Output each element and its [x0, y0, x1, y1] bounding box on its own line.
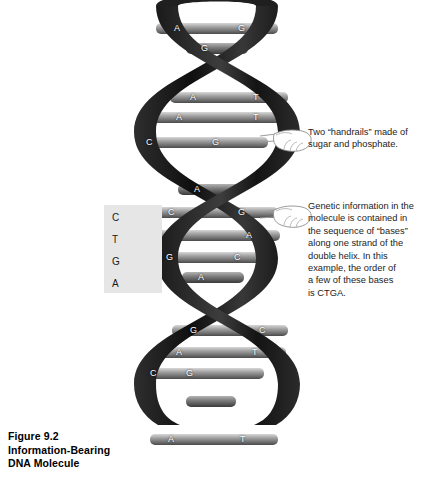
ctga-letter-g: G — [112, 251, 132, 273]
figure-caption: Figure 9.2 Information-Bearing DNA Molec… — [8, 430, 110, 471]
pointing-hand-bases-glyph — [258, 198, 314, 232]
annotation-bases: Genetic information in the molecule is c… — [308, 200, 432, 299]
ctga-letter-a: A — [112, 273, 132, 295]
pointing-hand-icon — [258, 122, 314, 156]
dna-bottom-rung-graphic — [150, 433, 280, 447]
annotation-handrails: Two “handrails” made of sugar and phosph… — [308, 126, 434, 151]
dna-bottom-base-pair: A T — [150, 433, 280, 447]
dna-top-arc — [156, 0, 278, 6]
ctga-sequence-letters: C T G A — [112, 207, 132, 295]
pointing-hand-handrails-glyph — [258, 122, 314, 156]
ctga-letter-t: T — [112, 229, 132, 251]
pointing-hand-icon — [258, 198, 314, 232]
ctga-letter-c: C — [112, 207, 132, 229]
